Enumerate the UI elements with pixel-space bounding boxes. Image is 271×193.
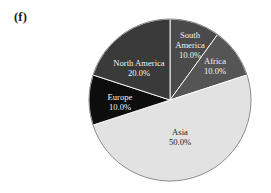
- pie-slice-label-europe: Europe10.0%: [108, 92, 133, 112]
- figure-panel: (f) SouthAmerica10.0%Africa10.0%Asia50.0…: [0, 0, 271, 193]
- pie-slice-label-asia: Asia50.0%: [169, 127, 191, 147]
- pie-slice-label-africa: Africa10.0%: [204, 56, 226, 76]
- pie-chart: SouthAmerica10.0%Africa10.0%Asia50.0%Eur…: [0, 0, 271, 193]
